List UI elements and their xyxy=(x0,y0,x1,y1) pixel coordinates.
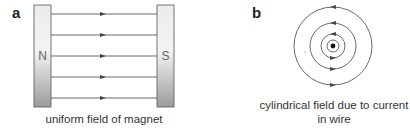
faint-speck xyxy=(304,51,306,53)
south-pole-label: S xyxy=(161,49,169,63)
caption-a: uniform field of magnet xyxy=(34,112,174,126)
caption-b: cylindrical field due to current in wire xyxy=(258,98,410,126)
field-arrow-icons xyxy=(100,12,106,100)
caption-b-line1: cylindrical field due to current xyxy=(258,98,410,112)
wire-current-dot-icon xyxy=(331,44,336,49)
caption-b-line2: in wire xyxy=(258,112,410,126)
north-pole-label: N xyxy=(38,49,47,63)
panel-label-b: b xyxy=(252,4,261,21)
